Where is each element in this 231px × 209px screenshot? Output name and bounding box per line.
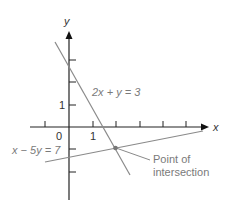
y-axis-arrow-icon	[66, 31, 73, 39]
origin-label: 0	[56, 130, 62, 142]
y-axis-label: y	[64, 15, 70, 27]
annotation-text-line2: intersection	[153, 166, 209, 178]
x-axis-label: x	[213, 121, 219, 133]
line-2x-plus-y-eq-3	[55, 42, 130, 175]
x-axis-arrow-icon	[201, 124, 209, 131]
intersection-point	[113, 146, 118, 151]
y-tick-label-1: 1	[59, 99, 65, 111]
equation-label-line1: 2x + y = 3	[92, 86, 140, 98]
annotation-text-line1: Point of	[153, 153, 190, 165]
x-ticks	[45, 121, 186, 127]
x-tick-label-1: 1	[90, 130, 96, 142]
equation-label-line2: x − 5y = 7	[12, 144, 60, 156]
